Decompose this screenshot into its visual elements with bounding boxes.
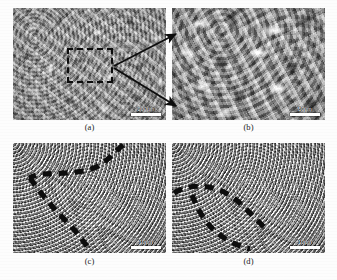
panel-d: 10μm [172, 143, 325, 253]
caption-d: (d) [172, 256, 325, 266]
scalebar-label-b: 50μm [298, 106, 311, 112]
sem-image-b [172, 8, 325, 120]
grain-boundary-path-d-upper [174, 186, 268, 231]
scalebar-label-a: 200μm [138, 106, 154, 112]
grain-boundary-path-c-upper [29, 145, 123, 178]
scalebar-d: 10μm [290, 239, 320, 249]
panel-c: 10μm [13, 143, 166, 253]
grain-boundary-overlay-d [172, 143, 325, 253]
scalebar-label-d: 10μm [298, 239, 311, 245]
scalebar-a: 200μm [131, 106, 161, 116]
figure-canvas: 200μm 50μm 10μm 10 [0, 0, 337, 280]
roi-dashed-rectangle-a [67, 48, 113, 83]
scalebar-bar-a [131, 113, 161, 116]
scalebar-c: 10μm [131, 239, 161, 249]
scalebar-bar-c [131, 246, 161, 249]
caption-b: (b) [172, 122, 325, 132]
panel-b: 50μm [172, 8, 325, 120]
caption-c: (c) [13, 256, 166, 266]
panel-a: 200μm [13, 8, 166, 120]
scalebar-bar-d [290, 246, 320, 249]
scalebar-bar-b [290, 113, 320, 116]
grain-boundary-overlay-c [13, 143, 166, 253]
scalebar-label-c: 10μm [139, 239, 152, 245]
scalebar-b: 50μm [290, 106, 320, 116]
caption-a: (a) [13, 122, 166, 132]
grain-boundary-path-c-lower [30, 178, 90, 251]
